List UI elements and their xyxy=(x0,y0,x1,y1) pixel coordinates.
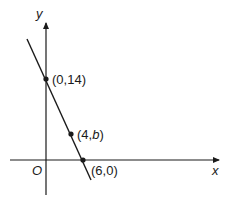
y-axis-label: y xyxy=(35,6,44,21)
coordinate-diagram: y x O (0,14) (4,b) (6,0) xyxy=(0,0,225,203)
label-point-0-14-open: (0, xyxy=(52,72,67,87)
label-point-4-b: (4,b) xyxy=(77,127,104,142)
x-axis-label: x xyxy=(211,163,219,178)
label-point-4-b-var: b xyxy=(92,127,99,142)
point-4-b xyxy=(68,131,73,136)
label-point-0-14: (0,14) xyxy=(52,72,86,87)
label-point-6-0-rest: 0) xyxy=(106,163,118,178)
label-point-4-b-rest: ) xyxy=(99,127,103,142)
label-point-6-0-open: (6, xyxy=(91,163,106,178)
label-point-0-14-rest: 14) xyxy=(67,72,86,87)
point-6-0 xyxy=(80,157,85,162)
origin-label: O xyxy=(32,163,42,178)
point-0-14 xyxy=(43,76,48,81)
label-point-4-b-open: (4, xyxy=(77,127,92,142)
label-point-6-0: (6,0) xyxy=(91,163,118,178)
